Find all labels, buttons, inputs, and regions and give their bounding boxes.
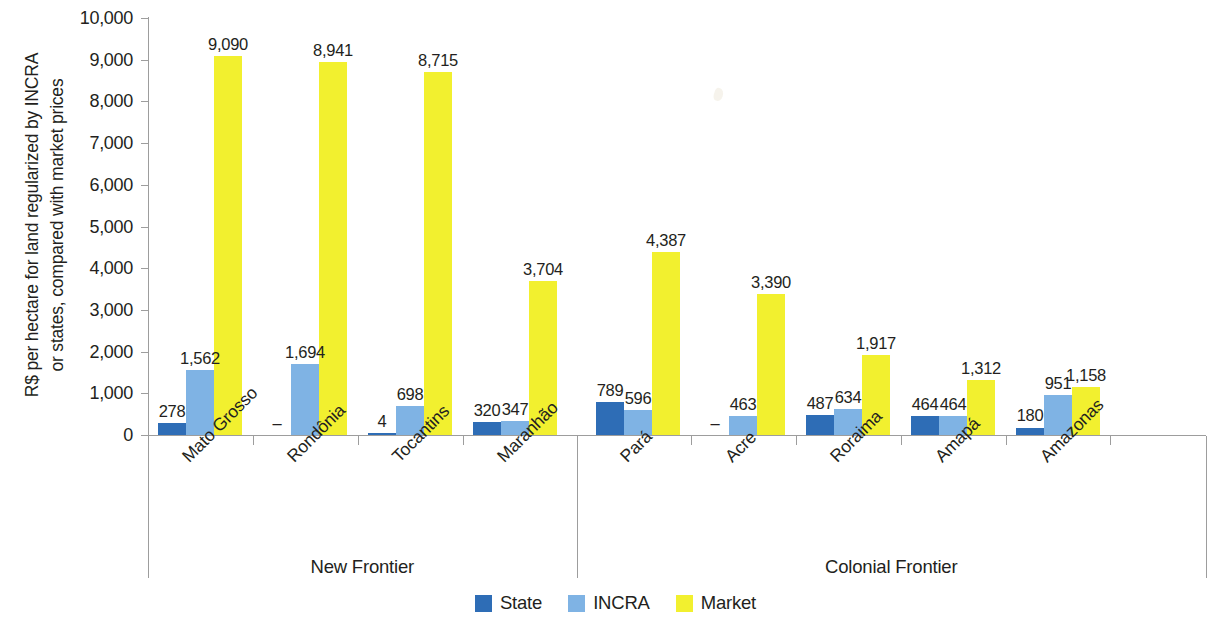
bar-market xyxy=(424,72,452,435)
bar-state xyxy=(1016,428,1044,436)
bar-value-label: – xyxy=(711,414,720,433)
legend-item: INCRA xyxy=(568,592,650,614)
x-tick-mark xyxy=(796,436,797,445)
y-tick-label: 1,000 xyxy=(0,383,133,404)
legend-item: State xyxy=(475,592,542,614)
bar-state xyxy=(473,422,501,435)
bar-state xyxy=(911,416,939,435)
bar-market xyxy=(319,62,347,435)
group-name-new-frontier: New Frontier xyxy=(311,556,415,578)
y-tick-label: 2,000 xyxy=(0,341,133,362)
y-tick-label: 5,000 xyxy=(0,216,133,237)
bar-value-label: 347 xyxy=(502,400,529,419)
bar-value-label: 1,562 xyxy=(180,349,220,368)
bar-value-label: 320 xyxy=(474,401,501,420)
legend-label: INCRA xyxy=(593,592,650,614)
bar-state xyxy=(158,423,186,435)
bar-value-label: 4,387 xyxy=(646,231,686,250)
legend-swatch-icon xyxy=(475,595,492,612)
y-tick-label: 8,000 xyxy=(0,91,133,112)
bar-value-label: 3,704 xyxy=(523,260,563,279)
bar-value-label: 8,941 xyxy=(313,41,353,60)
bar-value-label: 1,694 xyxy=(285,343,325,362)
bar-value-label: 596 xyxy=(625,389,652,408)
x-tick-mark xyxy=(463,436,464,445)
bar-value-label: 464 xyxy=(912,395,939,414)
x-tick-mark xyxy=(1006,436,1007,445)
y-tick-label: 6,000 xyxy=(0,174,133,195)
bar-state xyxy=(806,415,834,435)
group-name-colonial-frontier: Colonial Frontier xyxy=(825,556,957,578)
x-tick-mark xyxy=(253,436,254,445)
bar-value-label: 464 xyxy=(940,395,967,414)
bar-value-label: 180 xyxy=(1017,406,1044,425)
bar-market xyxy=(214,56,242,435)
legend-label: State xyxy=(500,592,542,614)
plot-area xyxy=(148,18,1206,435)
frontier-separator xyxy=(577,436,578,578)
group-band-edge xyxy=(1206,436,1207,578)
bar-value-label: 634 xyxy=(835,388,862,407)
bar-value-label: 8,715 xyxy=(418,51,458,70)
bar-value-label: 1,917 xyxy=(856,334,896,353)
bar-value-label: 4 xyxy=(378,412,387,431)
legend-swatch-icon xyxy=(676,595,693,612)
y-tick-label: 3,000 xyxy=(0,299,133,320)
y-tick-label: 0 xyxy=(0,425,133,446)
y-tick-label: 9,000 xyxy=(0,49,133,70)
x-tick-mark xyxy=(358,436,359,445)
bar-value-label: 698 xyxy=(397,385,424,404)
legend-item: Market xyxy=(676,592,756,614)
bar-value-label: 9,090 xyxy=(208,35,248,54)
x-tick-mark xyxy=(901,436,902,445)
y-tick-label: 7,000 xyxy=(0,133,133,154)
y-tick-label: 4,000 xyxy=(0,258,133,279)
bar-state xyxy=(596,402,624,435)
chart-legend: StateINCRAMarket xyxy=(0,592,1231,614)
bar-value-label: 789 xyxy=(597,381,624,400)
legend-swatch-icon xyxy=(568,595,585,612)
y-tick-label: 10,000 xyxy=(0,8,133,29)
bar-market xyxy=(652,252,680,435)
bar-value-label: 1,158 xyxy=(1066,366,1106,385)
x-tick-mark xyxy=(691,436,692,445)
group-band-edge xyxy=(148,436,149,578)
bar-state xyxy=(368,433,396,435)
bar-value-label: 3,390 xyxy=(751,273,791,292)
x-tick-mark xyxy=(1110,436,1111,445)
bar-value-label: 487 xyxy=(807,394,834,413)
legend-label: Market xyxy=(701,592,756,614)
bar-value-label: – xyxy=(273,414,282,433)
bar-chart: R$ per hectare for land regularized by I… xyxy=(0,0,1231,619)
bar-market xyxy=(757,294,785,435)
bar-value-label: 278 xyxy=(159,402,186,421)
bar-value-label: 463 xyxy=(730,395,757,414)
bar-value-label: 1,312 xyxy=(961,359,1001,378)
